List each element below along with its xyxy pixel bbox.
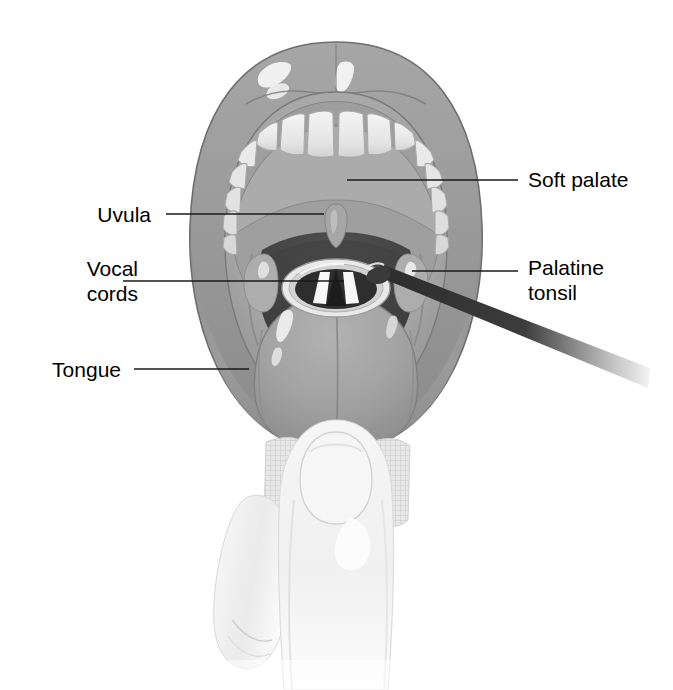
tooth-upper-central-right xyxy=(338,111,365,157)
tooth-upper-lateral-left xyxy=(280,114,305,155)
label-soft-palate: Soft palate xyxy=(528,167,628,192)
larynx-group xyxy=(282,259,390,317)
label-line-tongue-0: Tongue xyxy=(52,357,121,382)
label-palatine-tonsil: Palatinetonsil xyxy=(528,255,604,305)
hand-fade-mask xyxy=(200,660,480,690)
label-line-uvula-0: Uvula xyxy=(97,202,151,227)
label-line-vocal-cords-1: cords xyxy=(87,281,138,306)
tooth-upper-lateral-right xyxy=(367,114,392,155)
palatine-tonsil-left xyxy=(244,254,278,312)
label-line-vocal-cords-0: Vocal xyxy=(87,256,138,281)
label-uvula: Uvula xyxy=(97,202,151,227)
oral-cavity-group xyxy=(223,92,449,452)
label-line-palatine-tonsil-1: tonsil xyxy=(528,280,604,305)
hand-group xyxy=(200,420,480,690)
label-line-palatine-tonsil-0: Palatine xyxy=(528,255,604,280)
label-vocal-cords: Vocalcords xyxy=(87,256,138,306)
tooth-upper-central-left xyxy=(307,111,334,157)
tooth-upper-molar-right-2 xyxy=(435,211,449,235)
anatomy-illustration: Soft palatePalatinetonsilUvulaVocalcords… xyxy=(0,0,673,690)
mouth-anatomy-svg xyxy=(0,0,673,690)
label-line-soft-palate-0: Soft palate xyxy=(528,167,628,192)
thumbnail xyxy=(300,432,372,524)
label-tongue: Tongue xyxy=(52,357,121,382)
